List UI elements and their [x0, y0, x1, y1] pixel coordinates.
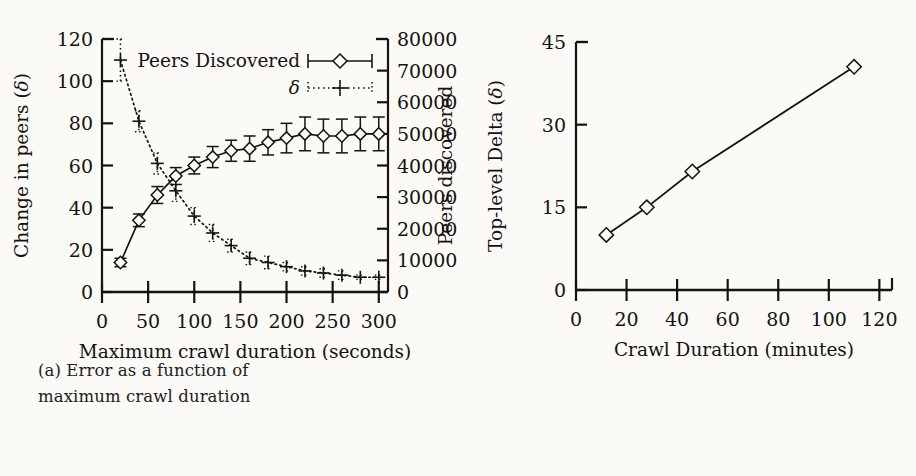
peers-point — [317, 119, 329, 153]
y-tick-label: 0 — [554, 279, 566, 301]
delta-point — [298, 264, 311, 277]
y-tick-label-left: 20 — [69, 239, 93, 261]
delta-marker-plus — [280, 260, 293, 273]
delta-marker-plus — [169, 184, 182, 197]
x-tick-label: 60 — [716, 308, 740, 330]
peers-marker-diamond — [317, 130, 329, 142]
peers-point — [336, 119, 348, 153]
peers-point — [188, 157, 200, 174]
peers-marker-diamond — [207, 151, 219, 163]
legend-label-peers: Peers Discovered — [137, 50, 300, 71]
legend-label-delta: δ — [289, 77, 300, 98]
delta-point — [151, 153, 164, 174]
x-tick-label: 100 — [176, 310, 212, 332]
panel-a-axes: 0204060801001200100000200000300000400000… — [11, 28, 458, 360]
y-tick-label-left: 0 — [81, 281, 93, 303]
y-tick-label-left: 120 — [57, 28, 93, 50]
y-tick-label: 15 — [542, 196, 566, 218]
legend-key-peers-diamond — [333, 54, 347, 68]
figure-container: 0204060801001200100000200000300000400000… — [0, 0, 916, 476]
x-tick-label: 120 — [861, 308, 897, 330]
delta-marker-plus — [335, 269, 348, 282]
peers-point — [243, 136, 255, 161]
x-tick-label: 150 — [222, 310, 258, 332]
peers-point — [354, 117, 366, 151]
y-tick-label-right: 800000 — [397, 28, 458, 50]
delta-marker-plus — [132, 115, 145, 128]
delta-marker-plus — [206, 226, 219, 239]
delta-point — [280, 260, 293, 273]
series-top-level-delta — [599, 60, 861, 242]
y-tick-label-right: 100000 — [397, 249, 458, 271]
x-tick-label: 100 — [811, 308, 847, 330]
panel-a-plot: 0204060801001200100000200000300000400000… — [0, 0, 458, 360]
marker-diamond — [599, 228, 613, 242]
y-axis-title: Top-level Delta (δ) — [485, 80, 506, 252]
delta-point — [372, 271, 385, 284]
peers-point — [373, 117, 385, 151]
peers-marker-diamond — [243, 142, 255, 154]
delta-marker-plus — [225, 239, 238, 252]
panel-a-caption-line2: maximum crawl duration — [38, 384, 368, 410]
marker-diamond — [847, 60, 861, 74]
delta-marker-plus — [151, 157, 164, 170]
x-tick-label: 40 — [665, 308, 689, 330]
series-peers-discovered — [114, 117, 385, 269]
delta-point — [317, 267, 330, 280]
panel-b-chart: 0153045020406080100120Top-level Delta (δ… — [458, 0, 916, 476]
peers-marker-diamond — [354, 128, 366, 140]
delta-point — [243, 252, 256, 265]
y-axis-title-left: Change in peers (δ) — [11, 73, 32, 258]
peers-marker-diamond — [280, 132, 292, 144]
peers-point — [114, 256, 126, 268]
delta-marker-plus — [243, 252, 256, 265]
panel-a-chart: 0204060801001200100000200000300000400000… — [0, 0, 458, 476]
x-tick-label: 50 — [136, 310, 160, 332]
x-tick-label: 20 — [614, 308, 638, 330]
y-tick-label: 30 — [542, 114, 566, 136]
delta-point — [206, 225, 219, 242]
panel-a-legend: Peers Discoveredδ — [137, 50, 372, 98]
peers-point — [262, 130, 274, 155]
delta-marker-plus — [372, 271, 385, 284]
peers-marker-diamond — [225, 145, 237, 157]
peers-point — [299, 117, 311, 151]
peers-marker-diamond — [188, 159, 200, 171]
delta-marker-plus — [354, 271, 367, 284]
y-axis-title-right: Peers discovered — [435, 86, 456, 246]
y-tick-label-left: 80 — [69, 112, 93, 134]
x-axis-title: Crawl Duration (minutes) — [614, 339, 854, 360]
delta-marker-plus — [114, 54, 127, 67]
peers-point — [280, 123, 292, 153]
y-tick-label-left: 60 — [69, 155, 93, 177]
panel-a-caption-line1: (a) Error as a function of — [38, 358, 368, 384]
x-tick-label: 250 — [315, 310, 351, 332]
x-tick-label: 200 — [268, 310, 304, 332]
panel-b-axes: 0153045020406080100120Top-level Delta (δ… — [485, 31, 897, 360]
y-tick-label-left: 100 — [57, 70, 93, 92]
peers-marker-diamond — [373, 128, 385, 140]
x-tick-label: 80 — [766, 308, 790, 330]
delta-point — [225, 239, 238, 252]
peers-point — [225, 140, 237, 161]
x-tick-label: 0 — [570, 308, 582, 330]
peers-marker-diamond — [299, 128, 311, 140]
peers-point — [133, 214, 145, 227]
x-tick-label: 0 — [96, 310, 108, 332]
panel-a-caption: (a) Error as a function of maximum crawl… — [38, 358, 368, 410]
legend-key-delta-plus — [332, 80, 348, 96]
delta-point — [132, 111, 145, 132]
peers-marker-diamond — [336, 130, 348, 142]
peers-marker-diamond — [262, 136, 274, 148]
delta-marker-plus — [317, 267, 330, 280]
peers-point — [207, 147, 219, 168]
y-tick-label-right: 700000 — [397, 60, 458, 82]
peers-marker-diamond — [133, 214, 145, 226]
y-tick-label: 45 — [542, 31, 566, 53]
y-tick-label-left: 40 — [69, 197, 93, 219]
delta-marker-plus — [262, 256, 275, 269]
delta-point — [262, 256, 275, 269]
x-tick-label: 300 — [361, 310, 397, 332]
panel-b-plot: 0153045020406080100120Top-level Delta (δ… — [458, 0, 916, 360]
delta-point — [335, 269, 348, 282]
